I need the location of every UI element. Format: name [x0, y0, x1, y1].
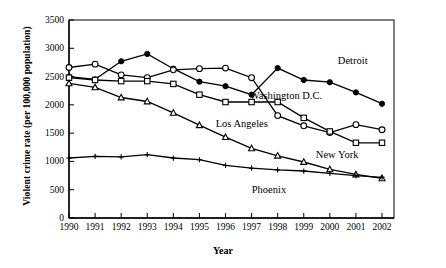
data-point	[118, 72, 124, 78]
data-point	[92, 84, 98, 90]
data-point	[196, 122, 202, 128]
data-point	[223, 163, 228, 168]
data-point	[92, 61, 98, 67]
data-point	[145, 78, 150, 83]
data-point	[197, 79, 202, 84]
data-point	[379, 101, 384, 106]
series-label-detroit: Detroit	[338, 55, 368, 66]
data-point	[301, 123, 307, 129]
data-point	[275, 153, 281, 159]
data-point	[353, 140, 358, 145]
series-label-new-york: New York	[316, 149, 359, 160]
data-point	[92, 77, 97, 82]
data-point	[223, 84, 228, 89]
data-point	[249, 166, 254, 171]
data-point	[145, 51, 150, 56]
data-point	[301, 77, 306, 82]
data-point	[223, 99, 228, 104]
data-point	[170, 110, 176, 116]
data-point	[66, 80, 72, 86]
data-point	[170, 67, 176, 73]
data-point	[275, 113, 281, 119]
series-label-los-angeles: Los Angeles	[216, 118, 268, 129]
data-point	[197, 66, 203, 72]
data-point	[171, 155, 176, 160]
data-point	[144, 98, 150, 104]
data-point	[301, 159, 307, 165]
data-point	[249, 75, 255, 81]
data-point	[275, 167, 280, 172]
data-point	[353, 122, 359, 128]
series-label-washington-d-c: Washington D.C.	[250, 90, 322, 101]
data-point	[379, 127, 385, 133]
series-line-detroit	[69, 54, 382, 104]
data-point	[249, 145, 255, 151]
data-point	[301, 168, 306, 173]
data-point	[275, 65, 280, 70]
data-point	[379, 140, 384, 145]
plot-area	[0, 0, 446, 268]
series-label-phoenix: Phoenix	[252, 184, 286, 195]
data-point	[353, 90, 358, 95]
data-point	[119, 59, 124, 64]
data-point	[301, 115, 306, 120]
data-point	[197, 157, 202, 162]
data-point	[118, 94, 124, 100]
data-point	[145, 152, 150, 157]
data-point	[171, 81, 176, 86]
data-point	[223, 134, 229, 140]
data-point	[92, 154, 97, 159]
data-point	[118, 78, 123, 83]
data-point	[223, 65, 229, 71]
chart-container: Violent crime rate (per 100,000 populati…	[0, 0, 446, 268]
data-point	[197, 92, 202, 97]
data-point	[119, 154, 124, 159]
x-axis-title: Year	[0, 245, 446, 256]
data-point	[327, 80, 332, 85]
data-point	[66, 65, 72, 71]
data-point	[66, 155, 71, 160]
data-point	[327, 129, 332, 134]
